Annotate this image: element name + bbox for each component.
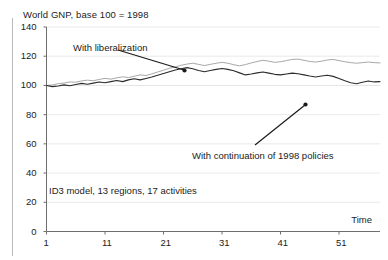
y-tick-label: 60 <box>11 139 37 149</box>
x-tick-label: 1 <box>44 238 68 248</box>
chart-caption: ID3 model, 13 regions, 17 activities <box>49 185 197 197</box>
plot-area <box>0 0 388 260</box>
y-tick-label: 0 <box>11 227 37 237</box>
chart-figure: World GNP, base 100 = 1998 <box>0 0 388 260</box>
x-tick-label: 41 <box>278 238 302 248</box>
y-tick-label: 80 <box>11 110 37 120</box>
x-tick-label: 21 <box>161 238 185 248</box>
callout-continuation <box>255 102 308 145</box>
y-tick-label: 140 <box>11 22 37 32</box>
series-line-liberalization <box>47 59 381 85</box>
x-axis-title: Time <box>351 214 372 225</box>
x-tick-label: 51 <box>336 238 360 248</box>
annotation-continuation: With continuation of 1998 policies <box>192 150 334 162</box>
x-tick-label: 11 <box>102 238 126 248</box>
chart-svg <box>0 0 388 260</box>
y-tick-label: 120 <box>11 51 37 61</box>
annotation-liberalization: With liberalization <box>73 42 147 54</box>
y-tick-label: 20 <box>11 197 37 207</box>
series-line-continuation <box>47 68 381 87</box>
x-tick-label: 31 <box>219 238 243 248</box>
y-tick-label: 40 <box>11 168 37 178</box>
y-tick-label: 100 <box>11 80 37 90</box>
